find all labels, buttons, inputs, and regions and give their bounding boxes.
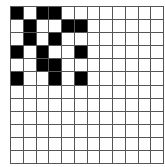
grid-cell-empty[interactable] <box>49 138 62 151</box>
grid-cell-empty[interactable] <box>62 151 75 164</box>
grid-cell-filled[interactable] <box>75 46 88 59</box>
grid-cell-empty[interactable] <box>88 125 101 138</box>
grid-cell-empty[interactable] <box>24 99 37 112</box>
grid-cell-empty[interactable] <box>37 72 50 85</box>
grid-cell-filled[interactable] <box>24 20 37 33</box>
grid-cell-empty[interactable] <box>139 125 152 138</box>
grid-cell-empty[interactable] <box>49 151 62 164</box>
grid-cell-filled[interactable] <box>11 46 24 59</box>
grid-cell-empty[interactable] <box>24 112 37 125</box>
grid-cell-empty[interactable] <box>62 99 75 112</box>
grid-cell-empty[interactable] <box>139 7 152 20</box>
grid-cell-empty[interactable] <box>11 138 24 151</box>
grid-cell-empty[interactable] <box>139 72 152 85</box>
grid-cell-empty[interactable] <box>75 151 88 164</box>
grid-cell-empty[interactable] <box>100 33 113 46</box>
grid-cell-empty[interactable] <box>151 112 164 125</box>
grid-cell-empty[interactable] <box>151 86 164 99</box>
grid-cell-empty[interactable] <box>11 151 24 164</box>
grid-cell-empty[interactable] <box>11 112 24 125</box>
grid-cell-empty[interactable] <box>139 151 152 164</box>
grid-cell-empty[interactable] <box>62 7 75 20</box>
grid-cell-empty[interactable] <box>139 20 152 33</box>
grid-cell-empty[interactable] <box>113 46 126 59</box>
grid-cell-empty[interactable] <box>151 20 164 33</box>
grid-cell-filled[interactable] <box>75 20 88 33</box>
grid-cell-empty[interactable] <box>151 99 164 112</box>
grid-cell-empty[interactable] <box>139 99 152 112</box>
grid-cell-empty[interactable] <box>62 112 75 125</box>
grid-cell-empty[interactable] <box>113 33 126 46</box>
grid-cell-empty[interactable] <box>24 72 37 85</box>
grid-cell-empty[interactable] <box>62 86 75 99</box>
grid-cell-empty[interactable] <box>49 86 62 99</box>
grid-cell-empty[interactable] <box>24 151 37 164</box>
grid-cell-empty[interactable] <box>49 112 62 125</box>
grid-cell-empty[interactable] <box>126 112 139 125</box>
grid-cell-empty[interactable] <box>126 151 139 164</box>
grid-cell-empty[interactable] <box>88 112 101 125</box>
grid-cell-empty[interactable] <box>49 125 62 138</box>
grid-cell-empty[interactable] <box>75 86 88 99</box>
grid-cell-empty[interactable] <box>37 33 50 46</box>
grid-cell-empty[interactable] <box>151 125 164 138</box>
grid-cell-empty[interactable] <box>24 86 37 99</box>
grid-cell-empty[interactable] <box>151 33 164 46</box>
grid-cell-empty[interactable] <box>37 112 50 125</box>
grid-cell-empty[interactable] <box>88 86 101 99</box>
grid-cell-empty[interactable] <box>75 99 88 112</box>
grid-cell-empty[interactable] <box>126 33 139 46</box>
grid-cell-empty[interactable] <box>100 86 113 99</box>
grid-cell-empty[interactable] <box>62 59 75 72</box>
grid-cell-empty[interactable] <box>37 99 50 112</box>
grid-cell-empty[interactable] <box>49 99 62 112</box>
grid-cell-empty[interactable] <box>113 151 126 164</box>
grid-cell-filled[interactable] <box>11 72 24 85</box>
grid-cell-filled[interactable] <box>37 59 50 72</box>
grid-cell-empty[interactable] <box>11 125 24 138</box>
grid-cell-empty[interactable] <box>126 46 139 59</box>
grid-cell-empty[interactable] <box>88 138 101 151</box>
grid-cell-empty[interactable] <box>126 138 139 151</box>
grid-cell-empty[interactable] <box>11 33 24 46</box>
grid-cell-empty[interactable] <box>24 59 37 72</box>
grid-cell-empty[interactable] <box>24 138 37 151</box>
grid-cell-empty[interactable] <box>88 151 101 164</box>
grid-cell-empty[interactable] <box>151 7 164 20</box>
grid-cell-empty[interactable] <box>139 59 152 72</box>
grid-cell-filled[interactable] <box>49 33 62 46</box>
grid-cell-filled[interactable] <box>37 46 50 59</box>
grid-cell-empty[interactable] <box>37 151 50 164</box>
grid-cell-empty[interactable] <box>113 7 126 20</box>
grid-cell-empty[interactable] <box>100 20 113 33</box>
grid-cell-empty[interactable] <box>75 7 88 20</box>
grid-cell-empty[interactable] <box>62 72 75 85</box>
grid-cell-empty[interactable] <box>24 125 37 138</box>
grid-cell-empty[interactable] <box>113 112 126 125</box>
grid-cell-empty[interactable] <box>100 72 113 85</box>
grid-cell-empty[interactable] <box>113 59 126 72</box>
grid-cell-empty[interactable] <box>126 59 139 72</box>
grid-cell-empty[interactable] <box>126 86 139 99</box>
grid-cell-empty[interactable] <box>62 33 75 46</box>
grid-cell-empty[interactable] <box>75 33 88 46</box>
grid-cell-empty[interactable] <box>88 72 101 85</box>
grid-cell-empty[interactable] <box>126 20 139 33</box>
grid-cell-empty[interactable] <box>75 125 88 138</box>
grid-cell-empty[interactable] <box>100 138 113 151</box>
grid-cell-empty[interactable] <box>151 138 164 151</box>
grid-cell-empty[interactable] <box>151 46 164 59</box>
grid-cell-empty[interactable] <box>139 138 152 151</box>
grid-cell-empty[interactable] <box>11 86 24 99</box>
grid-cell-empty[interactable] <box>100 99 113 112</box>
grid-cell-empty[interactable] <box>100 7 113 20</box>
grid-cell-empty[interactable] <box>75 138 88 151</box>
grid-cell-empty[interactable] <box>113 86 126 99</box>
grid-cell-empty[interactable] <box>139 46 152 59</box>
grid-cell-empty[interactable] <box>126 99 139 112</box>
grid-cell-filled[interactable] <box>49 59 62 72</box>
grid-cell-empty[interactable] <box>37 138 50 151</box>
grid-cell-filled[interactable] <box>49 7 62 20</box>
grid-cell-empty[interactable] <box>88 59 101 72</box>
grid-cell-filled[interactable] <box>75 72 88 85</box>
